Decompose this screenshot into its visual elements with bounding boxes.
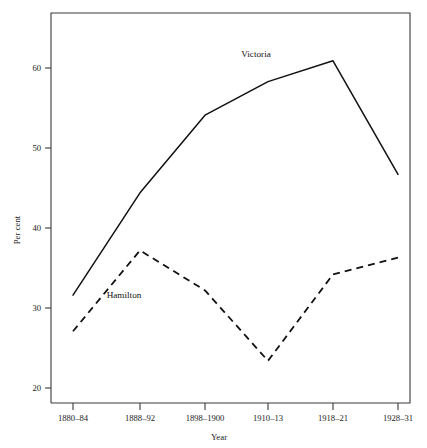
line-chart: 60 50 40 30 20 1880–84 1888–92 1898–1900…: [0, 0, 427, 448]
series-line-victoria: [73, 61, 398, 295]
x-tick-label-2: 1898–1900: [186, 413, 225, 423]
x-tick-label-4: 1918–21: [318, 413, 348, 423]
x-axis-title: Year: [211, 432, 227, 442]
y-tick-label-50: 50: [32, 143, 41, 153]
x-tick-label-1: 1888–92: [125, 413, 155, 423]
x-axis-ticks: [73, 403, 398, 410]
x-tick-label-5: 1928–31: [383, 413, 413, 423]
chart-container: 60 50 40 30 20 1880–84 1888–92 1898–1900…: [0, 0, 427, 448]
x-axis-tick-labels: 1880–84 1888–92 1898–1900 1910–13 1918–2…: [58, 413, 413, 423]
y-axis-tick-labels: 60 50 40 30 20: [32, 63, 41, 393]
y-tick-label-40: 40: [32, 223, 41, 233]
y-axis-title: Per cent: [12, 215, 22, 244]
series-label-victoria: Victoria: [241, 49, 271, 59]
y-tick-label-60: 60: [32, 63, 41, 73]
x-tick-label-0: 1880–84: [58, 413, 89, 423]
y-tick-label-30: 30: [32, 303, 41, 313]
plot-frame: [51, 13, 410, 403]
y-axis-ticks: [45, 68, 51, 388]
series-line-hamilton: [73, 250, 398, 360]
y-tick-label-20: 20: [32, 383, 41, 393]
series-label-hamilton: Hamilton: [107, 290, 142, 300]
x-tick-label-3: 1910–13: [253, 413, 283, 423]
